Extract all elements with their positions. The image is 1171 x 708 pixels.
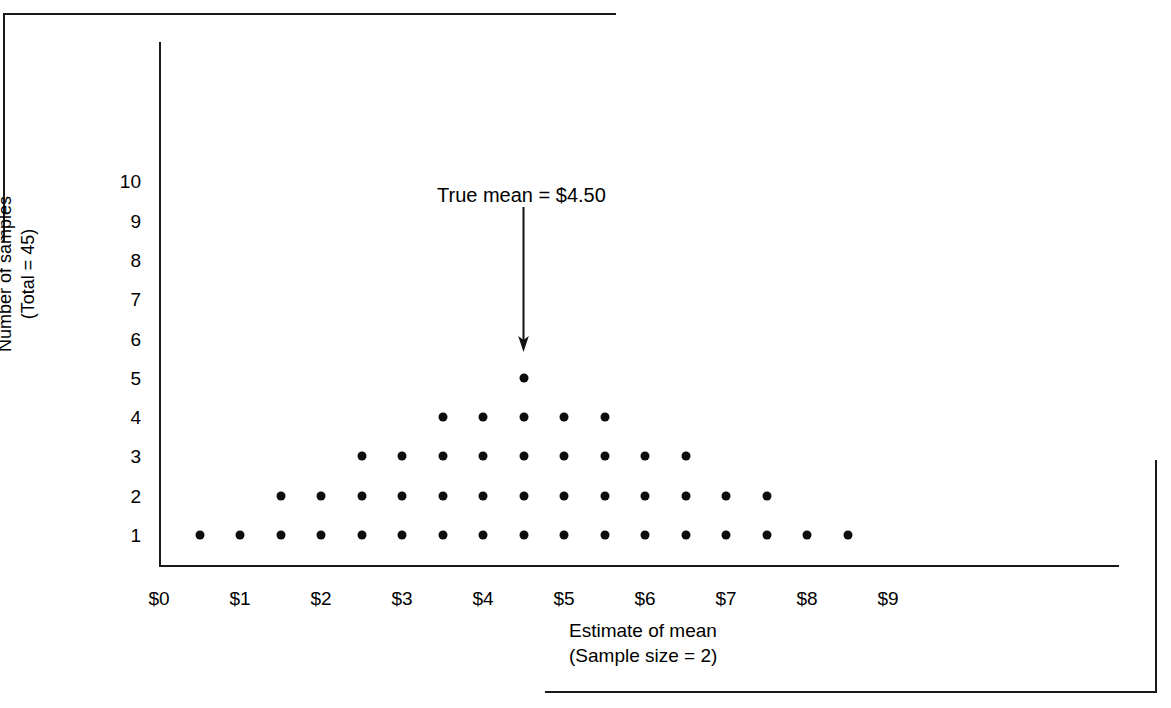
data-point-dot [357, 491, 366, 500]
data-point-dot [600, 491, 609, 500]
data-point-dot [398, 491, 407, 500]
data-point-dot [641, 452, 650, 461]
dot-plot-area [0, 0, 1171, 708]
data-point-dot [519, 452, 528, 461]
data-point-dot [722, 491, 731, 500]
figure-canvas: Number of samples (Total = 45) Estimate … [0, 0, 1171, 708]
data-point-dot [398, 452, 407, 461]
data-point-dot [479, 491, 488, 500]
data-point-dot [519, 491, 528, 500]
data-point-dot [641, 531, 650, 540]
data-point-dot [317, 531, 326, 540]
true-mean-annotation-label: True mean = $4.50 [437, 184, 606, 206]
data-point-dot [681, 491, 690, 500]
data-point-dot [762, 491, 771, 500]
data-point-dot [438, 452, 447, 461]
true-mean-arrow-icon [517, 207, 530, 352]
data-point-dot [438, 413, 447, 422]
data-point-dot [600, 452, 609, 461]
data-point-dot [560, 452, 569, 461]
data-point-dot [843, 531, 852, 540]
data-point-dot [600, 413, 609, 422]
data-point-dot [479, 452, 488, 461]
data-point-dot [560, 413, 569, 422]
data-point-dot [357, 531, 366, 540]
data-point-dot [398, 531, 407, 540]
data-point-dot [479, 531, 488, 540]
data-point-dot [276, 491, 285, 500]
data-point-dot [600, 531, 609, 540]
data-point-dot [479, 413, 488, 422]
data-point-dot [519, 413, 528, 422]
data-point-dot [560, 491, 569, 500]
data-point-dot [357, 452, 366, 461]
data-point-dot [317, 491, 326, 500]
data-point-dot [641, 491, 650, 500]
data-point-dot [438, 491, 447, 500]
data-point-dot [519, 531, 528, 540]
data-point-dot [722, 531, 731, 540]
data-point-dot [681, 531, 690, 540]
data-point-dot [560, 531, 569, 540]
data-point-dot [438, 531, 447, 540]
data-point-dot [803, 531, 812, 540]
data-point-dot [681, 452, 690, 461]
data-point-dot [519, 373, 528, 382]
data-point-dot [762, 531, 771, 540]
data-point-dot [236, 531, 245, 540]
data-point-dot [195, 531, 204, 540]
data-point-dot [276, 531, 285, 540]
